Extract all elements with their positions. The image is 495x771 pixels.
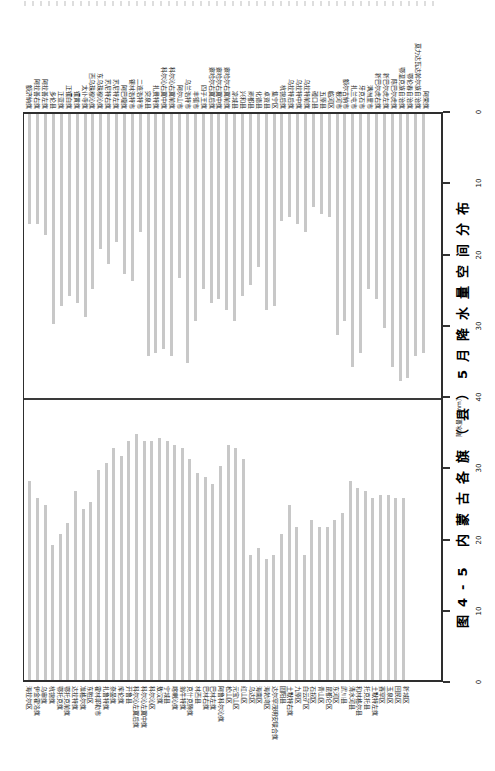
- category-label: 阿尔山市: [177, 85, 183, 109]
- category-label: 凉城县: [232, 91, 238, 109]
- figure-caption: 图4-5 内蒙古各旗（县）5月降水量空间分布: [452, 194, 471, 628]
- bar-slot: [26, 114, 34, 399]
- bar: [351, 114, 354, 367]
- axis-tick-label: 30: [474, 317, 484, 335]
- bar: [181, 448, 184, 680]
- lower-panel-category-labels: 海拉尔区伊金霍洛旗乌审旗杭锦旗鄂托克旗鄂托克前旗达拉特旗准格尔旗东胜区霍林郭勒市…: [23, 686, 443, 770]
- bar-slot: [81, 114, 89, 399]
- bar: [194, 114, 197, 321]
- bar: [188, 459, 191, 680]
- bar: [51, 545, 54, 680]
- plot-area: [23, 112, 443, 682]
- bar-slot: [102, 395, 110, 680]
- bar: [343, 114, 346, 321]
- bar-slot: [41, 395, 49, 680]
- bar-slot: [95, 395, 103, 680]
- bar-slot: [262, 114, 270, 399]
- category-label: 喀喇沁旗: [172, 686, 178, 710]
- bar-slot: [176, 114, 184, 399]
- category-label: 东乌珠穆沁旗: [97, 73, 103, 109]
- bar: [52, 114, 55, 324]
- bar: [312, 114, 315, 207]
- bar-slot: [224, 395, 232, 680]
- category-label: 突泉县: [145, 91, 151, 109]
- category-label: 乌达区: [249, 686, 255, 704]
- bar-slot: [325, 114, 333, 399]
- bar: [394, 498, 397, 680]
- bar: [320, 114, 323, 214]
- bar-slot: [34, 395, 42, 680]
- bar: [68, 114, 71, 296]
- scanned-figure-page: 额济纳旗阿拉善右旗阿拉善左旗多伦县正蓝旗正镶白旗镶黄旗太仆寺旗西乌珠穆沁旗东乌珠…: [0, 0, 495, 771]
- bar: [265, 559, 268, 680]
- bar-slot: [207, 114, 215, 399]
- bar: [202, 114, 205, 289]
- bar: [257, 548, 260, 680]
- bar-slot: [369, 395, 377, 680]
- category-label: 九原区: [295, 686, 301, 704]
- bar: [28, 481, 31, 681]
- category-label: 东胜区: [87, 686, 93, 704]
- axis-tick-label: 0: [474, 103, 484, 121]
- bar-slot: [89, 114, 97, 399]
- bar-slot: [254, 114, 262, 399]
- bar-slot: [357, 114, 365, 399]
- bar: [406, 114, 409, 378]
- category-label: 达尔罕茂明安联合旗: [272, 686, 278, 740]
- bar-slot: [42, 114, 50, 399]
- bar: [66, 523, 69, 680]
- bar: [356, 488, 359, 680]
- category-label: 科尔沁左翼后旗: [133, 686, 139, 728]
- bar: [115, 114, 118, 242]
- bar: [296, 114, 299, 224]
- bar: [204, 477, 207, 680]
- category-label: 牙克石市: [359, 85, 365, 109]
- bar: [333, 520, 336, 680]
- category-label: 阿巴嘎旗: [121, 85, 127, 109]
- bar-slot: [156, 395, 164, 680]
- bar-slot: [301, 395, 309, 680]
- bar-slot: [26, 395, 34, 680]
- category-label: 海南区: [256, 686, 262, 704]
- bar: [60, 114, 63, 306]
- category-label: 青山区: [318, 686, 324, 704]
- bar-slot: [285, 395, 293, 680]
- category-label: 卓资县: [264, 91, 270, 109]
- bar: [139, 114, 142, 232]
- bar: [112, 448, 115, 680]
- bar-slot: [97, 114, 105, 399]
- bar-slot: [217, 395, 225, 680]
- bar: [123, 114, 126, 274]
- category-label: 乌拉特前旗: [304, 79, 310, 109]
- bar-slot: [323, 395, 331, 680]
- category-label: 商都县: [248, 91, 254, 109]
- category-label: 克什克腾旗: [187, 686, 193, 716]
- bar: [233, 114, 236, 321]
- category-label: 镶黄旗: [74, 91, 80, 109]
- category-label: 阿鲁科尔沁旗: [218, 686, 224, 722]
- bar: [387, 495, 390, 680]
- bar: [219, 466, 222, 680]
- category-label: 固阳县: [280, 686, 286, 704]
- category-label: 清水河县: [349, 686, 355, 710]
- bar: [173, 445, 176, 680]
- bar-slot: [333, 114, 341, 399]
- category-label: 杭锦旗: [49, 686, 55, 704]
- category-label: 多伦县: [50, 91, 56, 109]
- category-label: 太仆寺旗: [82, 85, 88, 109]
- category-label: 莫力达瓦达斡尔族自治旗: [415, 43, 421, 109]
- bar-slot: [121, 114, 129, 399]
- bar: [249, 555, 252, 680]
- bar-slot: [168, 114, 176, 399]
- bar-slot: [308, 395, 316, 680]
- category-label: 石拐区: [310, 686, 316, 704]
- category-label: 巴林左旗: [210, 686, 216, 710]
- category-label: 临河区: [328, 91, 334, 109]
- category-label: 白云矿区: [303, 686, 309, 710]
- bar: [341, 513, 344, 680]
- bar-slot: [171, 395, 179, 680]
- bar-slot: [278, 114, 286, 399]
- bar-slot: [377, 395, 385, 680]
- category-label: 集宁区: [272, 91, 278, 109]
- bar-slot: [331, 395, 339, 680]
